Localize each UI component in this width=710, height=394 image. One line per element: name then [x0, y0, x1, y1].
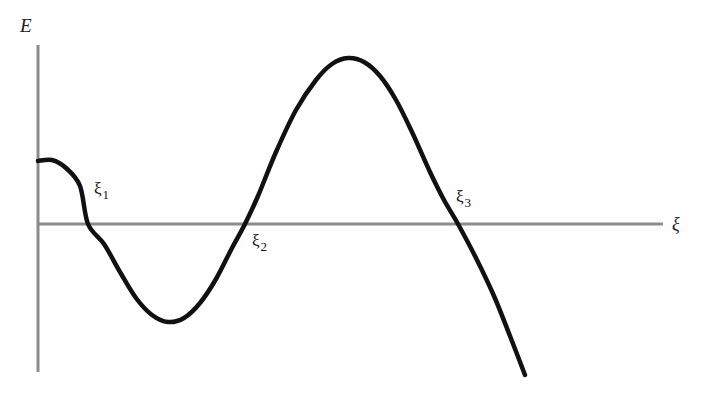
root-symbol: ξ [94, 179, 102, 198]
root-subscript: 2 [261, 239, 268, 254]
root-label-xi-2: ξ2 [252, 232, 266, 249]
root-subscript: 3 [465, 195, 472, 210]
root-symbol: ξ [456, 187, 464, 206]
y-axis-label: E [20, 16, 32, 35]
root-label-xi-1: ξ1 [94, 180, 108, 197]
root-subscript: 1 [103, 187, 110, 202]
energy-curve-figure: E ξ ξ1 ξ2 ξ3 [0, 0, 710, 394]
root-label-xi-3: ξ3 [456, 188, 470, 205]
energy-curve-path [38, 58, 525, 375]
x-axis-label: ξ [672, 215, 680, 233]
root-symbol: ξ [252, 231, 260, 250]
